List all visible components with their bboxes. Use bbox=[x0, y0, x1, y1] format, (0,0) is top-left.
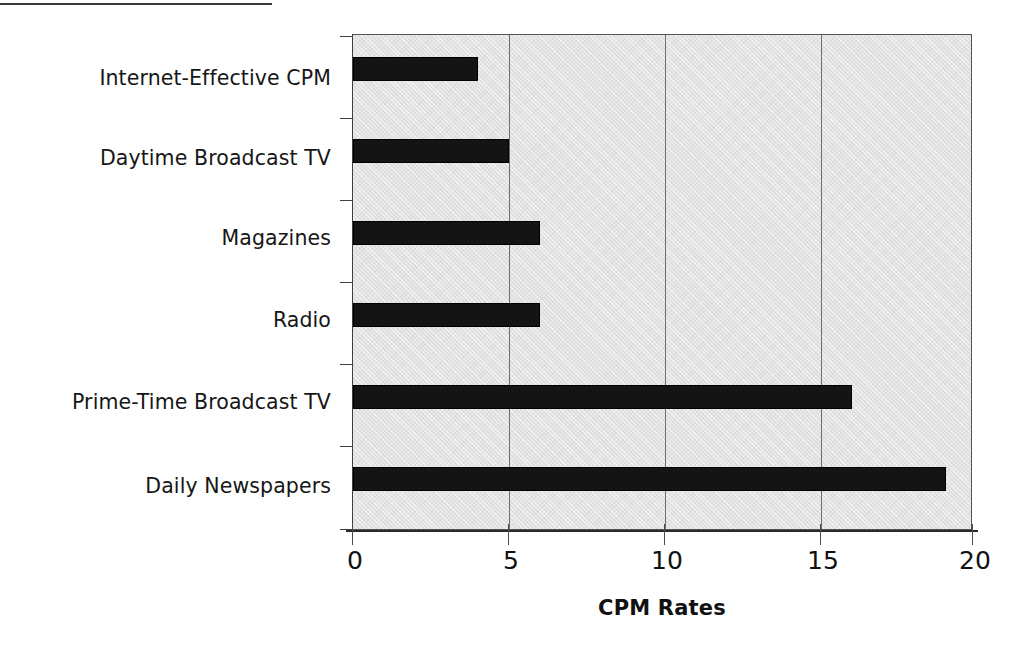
x-axis-tick-label-0: 0 bbox=[325, 548, 385, 573]
y-axis-tick-3 bbox=[340, 282, 352, 283]
gridline-x-10 bbox=[665, 35, 666, 529]
x-axis-tick-20 bbox=[972, 524, 973, 545]
y-axis-tick-1 bbox=[340, 118, 352, 119]
category-axis-labels: Internet-Effective CPM Daytime Broadcast… bbox=[0, 0, 331, 560]
category-label-internet-effective-cpm: Internet-Effective CPM bbox=[0, 68, 331, 89]
gridline-x-5 bbox=[509, 35, 510, 529]
bar-chart-figure: Internet-Effective CPM Daytime Broadcast… bbox=[0, 0, 1023, 649]
category-label-radio: Radio bbox=[0, 310, 331, 331]
gridline-x-20 bbox=[971, 35, 972, 529]
plot-background-texture bbox=[353, 35, 971, 529]
x-axis-line bbox=[346, 530, 978, 532]
category-label-magazines: Magazines bbox=[0, 228, 331, 249]
bar-magazines[interactable] bbox=[353, 221, 540, 245]
gridline-x-15 bbox=[821, 35, 822, 529]
y-axis-tick-6 bbox=[340, 529, 352, 530]
x-axis-title: CPM Rates bbox=[352, 596, 972, 620]
x-axis-tick-5 bbox=[508, 524, 509, 545]
x-axis-tick-10 bbox=[664, 524, 665, 545]
bar-daytime-broadcast-tv[interactable] bbox=[353, 139, 509, 163]
bar-daily-newspapers[interactable] bbox=[353, 467, 946, 491]
x-axis-tick-0 bbox=[352, 524, 353, 545]
bar-internet-effective-cpm[interactable] bbox=[353, 57, 478, 81]
y-axis-tick-5 bbox=[340, 446, 352, 447]
category-label-daytime-broadcast-tv: Daytime Broadcast TV bbox=[0, 148, 331, 169]
plot-area bbox=[352, 34, 972, 530]
y-axis-tick-2 bbox=[340, 200, 352, 201]
y-axis-tick-4 bbox=[340, 364, 352, 365]
category-label-daily-newspapers: Daily Newspapers bbox=[0, 476, 331, 497]
x-axis-tick-label-10: 10 bbox=[637, 548, 697, 573]
x-axis-tick-label-15: 15 bbox=[793, 548, 853, 573]
x-axis-tick-15 bbox=[820, 524, 821, 545]
y-axis-tick-0 bbox=[340, 36, 352, 37]
bar-radio[interactable] bbox=[353, 303, 540, 327]
y-axis-line bbox=[352, 34, 353, 531]
x-axis-tick-label-5: 5 bbox=[481, 548, 541, 573]
bar-prime-time-broadcast-tv[interactable] bbox=[353, 385, 852, 409]
category-label-prime-time-broadcast-tv: Prime-Time Broadcast TV bbox=[0, 392, 331, 413]
x-axis-tick-label-20: 20 bbox=[945, 548, 1005, 573]
